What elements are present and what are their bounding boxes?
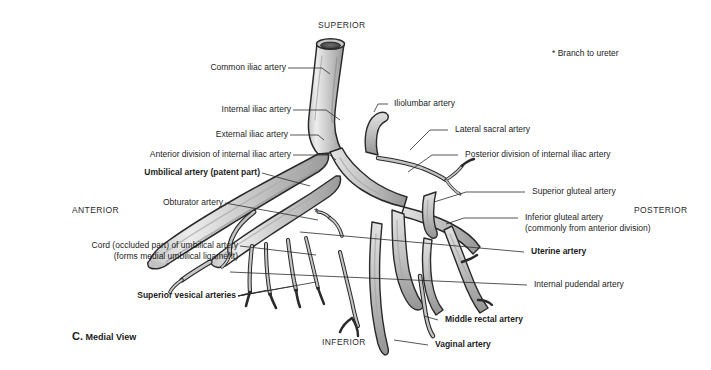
- label-anterior-division: Anterior division of internal iliac arte…: [150, 149, 291, 160]
- orientation-inferior: INFERIOR: [322, 337, 366, 347]
- internal-iliac-artery-shape: [330, 148, 407, 207]
- leader-inferior-gluteal: [446, 218, 518, 224]
- figure-caption: C. Medial View: [72, 330, 136, 342]
- lateral-sacral-artery-shape: [378, 158, 474, 194]
- leader-vaginal: [394, 340, 428, 345]
- superior-gluteal-artery-shape: [423, 192, 438, 238]
- label-obturator-artery: Obturator artery: [163, 197, 223, 208]
- label-common-iliac-artery: Common iliac artery: [210, 62, 286, 73]
- orientation-superior: SUPERIOR: [318, 20, 366, 30]
- orientation-posterior: POSTERIOR: [634, 205, 688, 215]
- label-inferior-gluteal-artery: Inferior gluteal artery: [525, 212, 603, 223]
- branch-to-ureter-shape: [318, 212, 342, 236]
- leader-lateral-sacral: [410, 130, 448, 150]
- label-uterine-artery: Uterine artery: [531, 246, 586, 257]
- uterine-artery-shape: [392, 210, 423, 310]
- iliolumbar-artery-shape: [365, 112, 388, 155]
- label-external-iliac-artery: External iliac artery: [216, 129, 288, 140]
- footnote-branch-to-ureter: * Branch to ureter: [552, 48, 619, 58]
- label-posterior-division: Posterior division of internal iliac art…: [465, 149, 611, 160]
- caption-text: Medial View: [86, 332, 137, 342]
- label-internal-iliac-artery: Internal iliac artery: [222, 104, 291, 115]
- asterisk-marker-icon: *: [314, 206, 318, 218]
- label-middle-rectal-artery: Middle rectal artery: [445, 314, 523, 325]
- leader-posterior-division: [408, 155, 458, 172]
- label-inferior-gluteal-note: (commonly from anterior division): [525, 223, 651, 234]
- label-superior-gluteal-artery: Superior gluteal artery: [532, 186, 616, 197]
- vaginal-artery-shape: [370, 222, 389, 355]
- small-branch-twigs: [340, 252, 358, 336]
- leader-iliolumbar: [374, 104, 388, 112]
- common-iliac-artery-shape: [308, 39, 344, 154]
- label-lateral-sacral-artery: Lateral sacral artery: [455, 124, 530, 135]
- leader-superior-gluteal: [434, 192, 525, 202]
- label-superior-vesical-arteries: Superior vesical arteries: [137, 290, 236, 301]
- label-internal-pudendal-artery: Internal pudendal artery: [534, 279, 624, 290]
- label-vaginal-artery: Vaginal artery: [435, 339, 491, 350]
- label-umbilical-cord-occluded-line2: (forms medial umbilical ligament): [114, 251, 238, 262]
- label-umbilical-cord-occluded: Cord (occluded part) of umbilical artery: [92, 240, 238, 251]
- label-iliolumbar-artery: Iliolumbar artery: [394, 98, 455, 109]
- leader-uterine: [300, 232, 524, 252]
- label-umbilical-artery-patent-part: Umbilical artery (patent part): [144, 167, 260, 178]
- caption-letter: C.: [72, 330, 83, 342]
- orientation-anterior: ANTERIOR: [72, 205, 119, 215]
